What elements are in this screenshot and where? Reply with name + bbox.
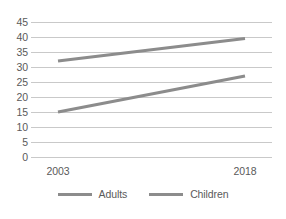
legend-label: Adults bbox=[99, 188, 128, 200]
legend-entry-adults[interactable]: Adults bbox=[58, 188, 128, 200]
legend-label: Children bbox=[190, 188, 228, 200]
chart-legend: AdultsChildren bbox=[0, 188, 286, 200]
x-axis: 20032018 bbox=[0, 0, 286, 219]
x-axis-tick-label: 2018 bbox=[234, 166, 257, 177]
legend-line-swatch-icon bbox=[58, 193, 92, 196]
legend-entry-children[interactable]: Children bbox=[149, 188, 228, 200]
legend-line-swatch-icon bbox=[149, 193, 183, 196]
x-axis-tick-label: 2003 bbox=[47, 166, 70, 177]
line-chart: 051015202530354045 20032018 AdultsChildr… bbox=[0, 0, 286, 219]
